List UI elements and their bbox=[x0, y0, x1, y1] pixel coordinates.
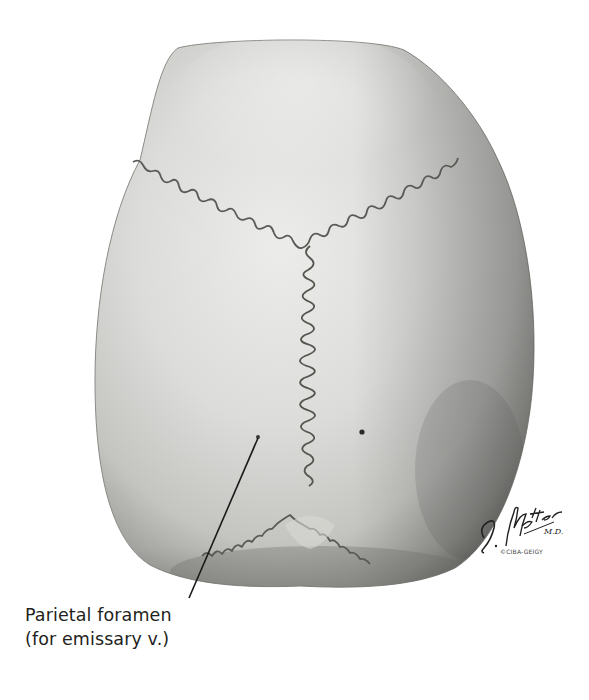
copyright-notice: ©CIBA-GEIGY bbox=[500, 548, 543, 555]
parietal-foramen-label: Parietal foramen (for emissary v.) bbox=[25, 603, 172, 651]
label-line-2: (for emissary v.) bbox=[25, 627, 172, 651]
svg-text:M.D.: M.D. bbox=[543, 527, 563, 536]
label-line-1: Parietal foramen bbox=[25, 603, 172, 627]
skull-superior-view-illustration bbox=[0, 0, 589, 700]
parietal-foramen-right bbox=[359, 429, 364, 434]
netter-signature: M.D. bbox=[466, 488, 576, 568]
calvaria bbox=[0, 0, 589, 700]
